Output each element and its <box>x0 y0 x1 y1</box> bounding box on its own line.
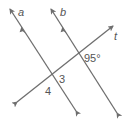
angle-label-4: 4 <box>45 85 51 97</box>
label-line-t: t <box>114 30 118 42</box>
parallel-lines-diagram: a b t 95° 3 4 <box>0 0 129 120</box>
line-a <box>10 9 76 111</box>
label-line-b: b <box>60 6 66 18</box>
label-line-a: a <box>18 6 24 18</box>
parallel-marker-b-icon <box>61 27 67 34</box>
angle-label-3: 3 <box>59 73 65 85</box>
angle-label-95: 95° <box>84 52 101 64</box>
line-t <box>17 26 113 102</box>
